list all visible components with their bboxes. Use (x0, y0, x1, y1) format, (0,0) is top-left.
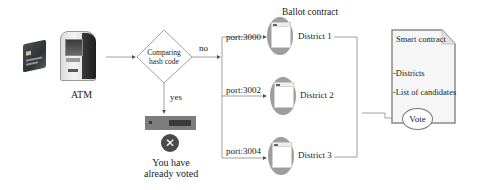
no-branch-label: no (199, 44, 208, 53)
port-label-district-1: port:3000 (226, 33, 261, 42)
decision-node: Comparing hash code (142, 49, 186, 66)
x-circle-icon: ✕ (161, 134, 179, 152)
smart-contract-item-districts: -Districts (393, 69, 425, 78)
decision-line-2: hash code (142, 58, 186, 67)
smart-contract-title: Smart contract (396, 35, 446, 44)
ballot-node-district-2 (270, 77, 296, 115)
ballot-contract-title: Ballot contract (282, 8, 338, 18)
district-1-label: District 1 (298, 32, 332, 41)
vote-node: Vote (402, 108, 433, 130)
already-voted-line-2: already voted (144, 168, 198, 179)
ballot-node-district-3 (268, 137, 294, 175)
smart-contract-item-candidates: -List of candidates (393, 88, 456, 97)
ballot-node-district-1 (267, 17, 293, 55)
ballot-device-image (145, 116, 196, 130)
port-label-district-3: port:3004 (226, 147, 261, 156)
already-voted-message: You have already voted (144, 157, 198, 179)
already-voted-line-1: You have (144, 157, 198, 168)
yes-branch-label: yes (170, 93, 182, 102)
port-label-district-2: port:3002 (226, 86, 261, 95)
district-3-label: District 3 (298, 151, 332, 160)
district-2-label: District 2 (300, 91, 334, 100)
